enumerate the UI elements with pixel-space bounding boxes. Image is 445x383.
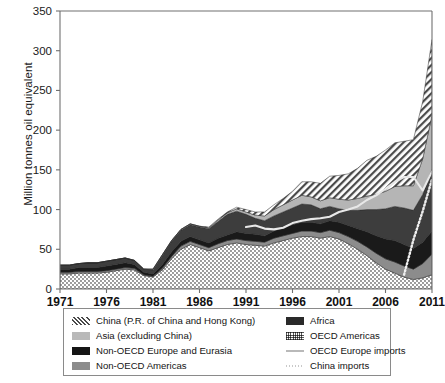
legend-item[interactable]: Non-OECD Europe and Eurasia xyxy=(72,343,290,358)
svg-text:1971: 1971 xyxy=(47,295,74,309)
swatch-nonoecd-europe-icon xyxy=(72,347,90,355)
legend-label: OECD Americas xyxy=(310,331,380,341)
svg-text:1981: 1981 xyxy=(140,295,167,309)
legend-label: Asia (excluding China) xyxy=(96,331,192,341)
chart-legend: China (P.R. of China and Hong Kong) Asia… xyxy=(63,308,391,376)
svg-text:1986: 1986 xyxy=(186,295,213,309)
svg-text:2001: 2001 xyxy=(326,295,353,309)
legend-label: Non-OECD Americas xyxy=(96,361,187,371)
svg-text:1991: 1991 xyxy=(233,295,260,309)
legend-label: Africa xyxy=(310,316,335,326)
legend-item[interactable]: OECD Americas xyxy=(286,328,390,343)
chart-figure: Million tonnes oil equivalent xyxy=(0,0,445,383)
legend-column-right: Africa OECD Americas OECD Europe imports… xyxy=(286,313,390,373)
stacked-areas xyxy=(60,40,432,289)
swatch-oecd-americas-icon xyxy=(286,332,304,340)
legend-item[interactable]: Asia (excluding China) xyxy=(72,328,290,343)
svg-text:1996: 1996 xyxy=(279,295,306,309)
svg-text:1976: 1976 xyxy=(93,295,120,309)
legend-item[interactable]: OECD Europe imports xyxy=(286,343,390,358)
legend-label: Non-OECD Europe and Eurasia xyxy=(96,346,232,356)
svg-text:2011: 2011 xyxy=(419,295,445,309)
swatch-oecd-europe-imports-icon xyxy=(286,347,304,355)
swatch-asia-icon xyxy=(72,332,90,340)
legend-label: OECD Europe imports xyxy=(310,346,405,356)
legend-label: China imports xyxy=(310,361,369,371)
legend-column-left: China (P.R. of China and Hong Kong) Asia… xyxy=(72,313,290,373)
svg-text:50: 50 xyxy=(39,243,52,255)
legend-item[interactable]: Africa xyxy=(286,313,390,328)
swatch-china-icon xyxy=(72,317,90,325)
svg-text:100: 100 xyxy=(33,204,52,216)
swatch-china-imports-icon xyxy=(286,362,304,370)
legend-item[interactable]: China imports xyxy=(286,358,390,373)
svg-text:0: 0 xyxy=(46,283,52,295)
svg-text:200: 200 xyxy=(33,124,52,136)
svg-text:150: 150 xyxy=(33,164,52,176)
legend-item[interactable]: Non-OECD Americas xyxy=(72,358,290,373)
svg-text:2006: 2006 xyxy=(372,295,399,309)
legend-label: China (P.R. of China and Hong Kong) xyxy=(96,316,255,326)
swatch-africa-icon xyxy=(286,317,304,325)
svg-text:250: 250 xyxy=(33,84,52,96)
legend-item[interactable]: China (P.R. of China and Hong Kong) xyxy=(72,313,290,328)
svg-text:300: 300 xyxy=(33,45,52,57)
swatch-nonoecd-americas-icon xyxy=(72,362,90,370)
svg-text:350: 350 xyxy=(33,5,52,17)
